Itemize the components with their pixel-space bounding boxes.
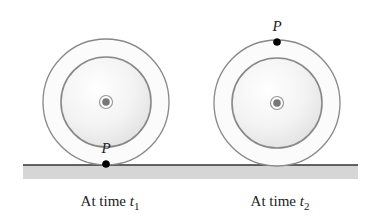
hub-center [273, 99, 281, 107]
point-p-marker-top [102, 160, 109, 167]
rolling-wheel-diagram: PAt time t1PAt time t2 [0, 0, 379, 218]
hub-center [102, 98, 110, 106]
wheel: PAt time t1 [43, 39, 169, 212]
time-caption: At time t1 [81, 193, 140, 212]
ground-band [23, 165, 358, 179]
ground-surface [23, 165, 358, 179]
point-p-marker-top [273, 38, 280, 45]
point-p-label: P [271, 18, 281, 34]
time-caption: At time t2 [251, 193, 310, 212]
wheel: PAt time t2 [214, 18, 340, 212]
point-p-label: P [100, 140, 110, 156]
